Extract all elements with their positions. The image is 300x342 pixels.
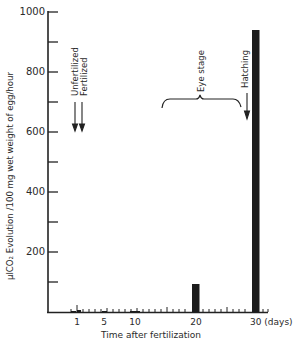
y-tick-label-600: 600: [26, 126, 45, 137]
x-tick-label-30: 30 (days): [250, 317, 293, 327]
bar-day-20: [192, 284, 200, 313]
y-tick-label-400: 400: [26, 186, 45, 197]
y-ticks: [48, 12, 58, 282]
x-tick-label-5: 5: [101, 317, 107, 327]
y-tick-label-800: 800: [26, 66, 45, 77]
bar-day-0_5: [71, 311, 76, 313]
y-axis-label: μlCO₂ Evolution /100 mg wet weight of eg…: [5, 71, 15, 280]
y-tick-label-1000: 1000: [20, 6, 45, 17]
bar-day-30-hatching: [252, 30, 260, 313]
y-tick-label-200: 200: [26, 246, 45, 257]
annotation-hatching: Hatching: [240, 50, 250, 88]
co2-evolution-chart: 1000 800 600 400 200 μlCO₂ Evolution /10…: [0, 0, 300, 342]
x-tick-label-10: 10: [129, 317, 141, 327]
x-tick-label-1: 1: [74, 317, 80, 327]
x-axis-label: Time after fertilization: [100, 330, 201, 340]
arrow-down-icon: [73, 102, 85, 131]
annotation-fertilized: Fertilized: [79, 57, 89, 96]
annotation-eye-stage: Eye stage: [196, 50, 206, 92]
bar-day-1: [77, 310, 81, 313]
bar-day-10: [130, 311, 140, 313]
arrow-down-icon: [245, 93, 250, 119]
brace-icon: [162, 95, 241, 108]
x-ticks: [71, 305, 268, 312]
bars: [71, 30, 260, 313]
x-tick-label-20: 20: [190, 317, 202, 327]
bar-day-5: [102, 311, 107, 313]
